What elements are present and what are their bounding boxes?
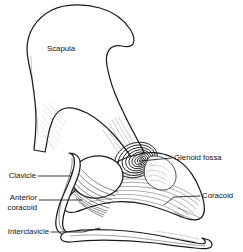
anatomical-figure: Scapula Glenoid fossa Coracoid Clavicle …	[0, 0, 243, 252]
label-scapula: Scapula	[47, 44, 76, 53]
interclavicle-outline	[61, 230, 212, 249]
label-anterior-coracoid-line1: Anterior	[10, 193, 38, 202]
shoulder-girdle-diagram: Scapula Glenoid fossa Coracoid Clavicle …	[0, 0, 243, 252]
scapula-shape	[27, 5, 144, 160]
label-interclavicle: Interclavicle	[8, 227, 49, 236]
label-glenoid-fossa: Glenoid fossa	[174, 153, 222, 162]
interclavicle-shape	[61, 230, 212, 249]
label-clavicle: Clavicle	[9, 171, 36, 180]
label-coracoid: Coracoid	[202, 191, 233, 200]
label-anterior-coracoid-line2: coracoid	[8, 203, 37, 212]
